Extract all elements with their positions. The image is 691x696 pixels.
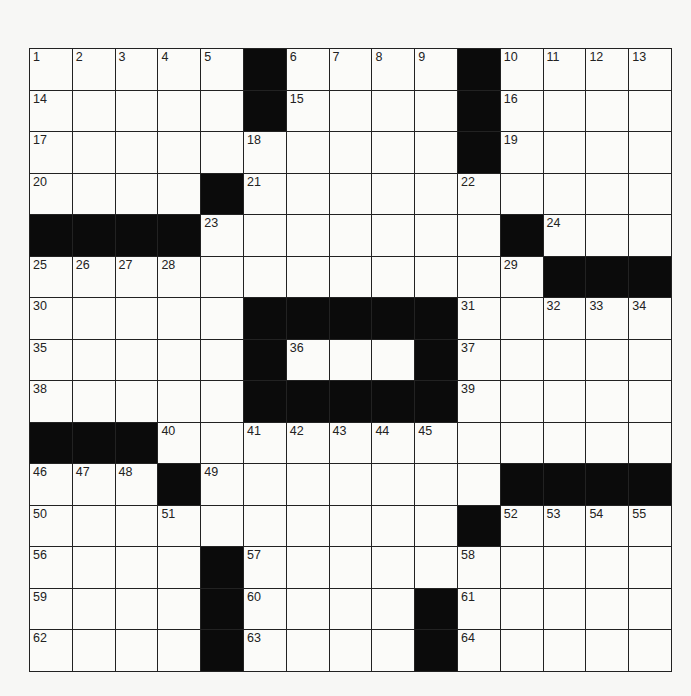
crossword-cell[interactable] bbox=[330, 91, 372, 132]
crossword-cell[interactable]: 12 bbox=[586, 49, 628, 90]
crossword-cell[interactable]: 30 bbox=[30, 298, 72, 339]
crossword-cell[interactable]: 6 bbox=[287, 49, 329, 90]
crossword-cell[interactable] bbox=[629, 630, 671, 671]
crossword-cell[interactable] bbox=[544, 547, 586, 588]
crossword-cell[interactable] bbox=[629, 340, 671, 381]
crossword-cell[interactable] bbox=[330, 464, 372, 505]
crossword-cell[interactable] bbox=[287, 506, 329, 547]
crossword-cell[interactable] bbox=[544, 381, 586, 422]
crossword-cell[interactable] bbox=[458, 464, 500, 505]
crossword-cell[interactable] bbox=[287, 464, 329, 505]
crossword-cell[interactable] bbox=[158, 174, 200, 215]
crossword-cell[interactable] bbox=[544, 589, 586, 630]
crossword-cell[interactable]: 3 bbox=[116, 49, 158, 90]
crossword-cell[interactable] bbox=[544, 340, 586, 381]
crossword-cell[interactable]: 62 bbox=[30, 630, 72, 671]
crossword-cell[interactable]: 34 bbox=[629, 298, 671, 339]
crossword-cell[interactable]: 49 bbox=[201, 464, 243, 505]
crossword-cell[interactable] bbox=[544, 630, 586, 671]
crossword-cell[interactable] bbox=[586, 589, 628, 630]
crossword-cell[interactable]: 13 bbox=[629, 49, 671, 90]
crossword-cell[interactable] bbox=[116, 381, 158, 422]
crossword-cell[interactable]: 33 bbox=[586, 298, 628, 339]
crossword-cell[interactable]: 5 bbox=[201, 49, 243, 90]
crossword-cell[interactable] bbox=[244, 464, 286, 505]
crossword-cell[interactable]: 43 bbox=[330, 423, 372, 464]
crossword-cell[interactable] bbox=[544, 91, 586, 132]
crossword-cell[interactable] bbox=[501, 174, 543, 215]
crossword-cell[interactable] bbox=[415, 257, 457, 298]
crossword-cell[interactable] bbox=[544, 423, 586, 464]
crossword-cell[interactable] bbox=[116, 630, 158, 671]
crossword-cell[interactable]: 16 bbox=[501, 91, 543, 132]
crossword-cell[interactable] bbox=[629, 547, 671, 588]
crossword-cell[interactable] bbox=[544, 132, 586, 173]
crossword-cell[interactable]: 4 bbox=[158, 49, 200, 90]
crossword-cell[interactable]: 27 bbox=[116, 257, 158, 298]
crossword-cell[interactable] bbox=[201, 340, 243, 381]
crossword-cell[interactable] bbox=[629, 132, 671, 173]
crossword-cell[interactable] bbox=[330, 630, 372, 671]
crossword-cell[interactable] bbox=[629, 91, 671, 132]
crossword-cell[interactable] bbox=[201, 257, 243, 298]
crossword-cell[interactable]: 38 bbox=[30, 381, 72, 422]
crossword-cell[interactable] bbox=[458, 215, 500, 256]
crossword-cell[interactable] bbox=[501, 547, 543, 588]
crossword-cell[interactable]: 10 bbox=[501, 49, 543, 90]
crossword-cell[interactable] bbox=[544, 174, 586, 215]
crossword-cell[interactable]: 40 bbox=[158, 423, 200, 464]
crossword-cell[interactable]: 17 bbox=[30, 132, 72, 173]
crossword-cell[interactable] bbox=[586, 215, 628, 256]
crossword-cell[interactable] bbox=[586, 630, 628, 671]
crossword-cell[interactable] bbox=[586, 132, 628, 173]
crossword-cell[interactable]: 8 bbox=[372, 49, 414, 90]
crossword-cell[interactable]: 25 bbox=[30, 257, 72, 298]
crossword-cell[interactable] bbox=[330, 215, 372, 256]
crossword-cell[interactable] bbox=[629, 174, 671, 215]
crossword-cell[interactable]: 57 bbox=[244, 547, 286, 588]
crossword-cell[interactable]: 41 bbox=[244, 423, 286, 464]
crossword-cell[interactable] bbox=[415, 215, 457, 256]
crossword-cell[interactable] bbox=[287, 589, 329, 630]
crossword-cell[interactable] bbox=[158, 547, 200, 588]
crossword-cell[interactable] bbox=[116, 298, 158, 339]
crossword-cell[interactable] bbox=[158, 132, 200, 173]
crossword-cell[interactable] bbox=[201, 298, 243, 339]
crossword-cell[interactable]: 55 bbox=[629, 506, 671, 547]
crossword-cell[interactable]: 7 bbox=[330, 49, 372, 90]
crossword-cell[interactable]: 36 bbox=[287, 340, 329, 381]
crossword-cell[interactable] bbox=[501, 381, 543, 422]
crossword-cell[interactable]: 19 bbox=[501, 132, 543, 173]
crossword-cell[interactable] bbox=[330, 132, 372, 173]
crossword-cell[interactable]: 32 bbox=[544, 298, 586, 339]
crossword-cell[interactable]: 35 bbox=[30, 340, 72, 381]
crossword-cell[interactable] bbox=[244, 215, 286, 256]
crossword-cell[interactable] bbox=[73, 381, 115, 422]
crossword-cell[interactable]: 50 bbox=[30, 506, 72, 547]
crossword-cell[interactable] bbox=[372, 215, 414, 256]
crossword-cell[interactable] bbox=[73, 298, 115, 339]
crossword-cell[interactable] bbox=[201, 506, 243, 547]
crossword-cell[interactable]: 54 bbox=[586, 506, 628, 547]
crossword-cell[interactable] bbox=[116, 132, 158, 173]
crossword-cell[interactable]: 11 bbox=[544, 49, 586, 90]
crossword-cell[interactable]: 61 bbox=[458, 589, 500, 630]
crossword-cell[interactable]: 29 bbox=[501, 257, 543, 298]
crossword-cell[interactable] bbox=[372, 174, 414, 215]
crossword-cell[interactable] bbox=[330, 547, 372, 588]
crossword-cell[interactable] bbox=[629, 423, 671, 464]
crossword-cell[interactable] bbox=[372, 589, 414, 630]
crossword-cell[interactable] bbox=[372, 547, 414, 588]
crossword-cell[interactable] bbox=[586, 423, 628, 464]
crossword-cell[interactable] bbox=[415, 174, 457, 215]
crossword-cell[interactable]: 46 bbox=[30, 464, 72, 505]
crossword-cell[interactable] bbox=[330, 174, 372, 215]
crossword-cell[interactable] bbox=[158, 91, 200, 132]
crossword-cell[interactable] bbox=[372, 464, 414, 505]
crossword-cell[interactable] bbox=[116, 547, 158, 588]
crossword-cell[interactable] bbox=[244, 257, 286, 298]
crossword-cell[interactable] bbox=[287, 132, 329, 173]
crossword-cell[interactable]: 22 bbox=[458, 174, 500, 215]
crossword-cell[interactable]: 21 bbox=[244, 174, 286, 215]
crossword-cell[interactable] bbox=[244, 506, 286, 547]
